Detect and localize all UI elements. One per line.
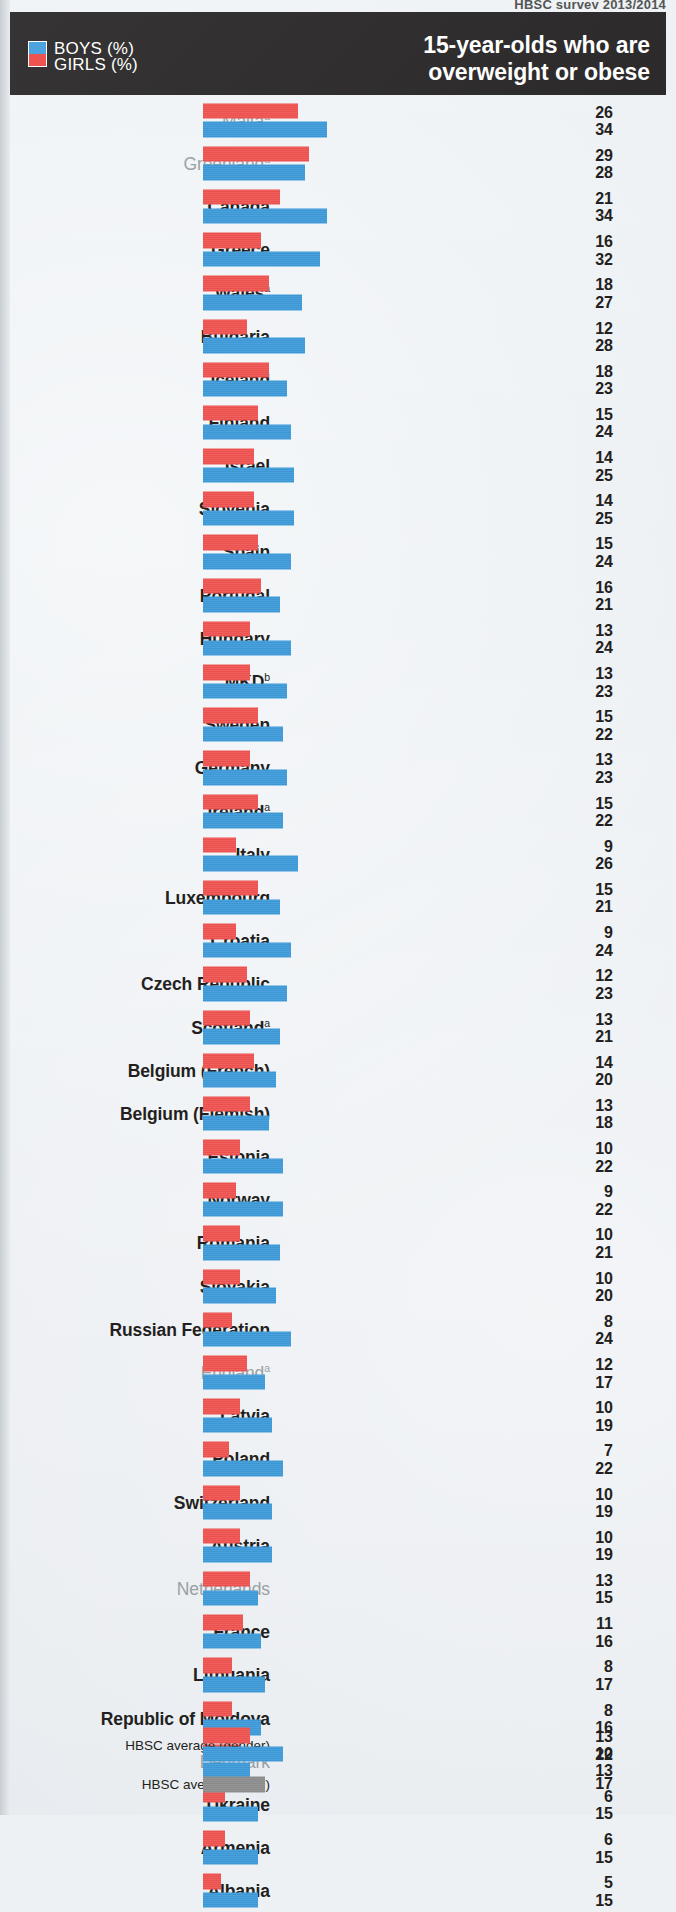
value-pair: 1020 (0, 1269, 613, 1304)
value-boys: 21 (0, 1243, 613, 1261)
value-pair: 1217 (0, 1356, 613, 1391)
value-pair: 1522 (0, 794, 613, 829)
legend: BOYS (%) GIRLS (%) (28, 41, 138, 72)
chart-row: Luxembourg1521 (0, 876, 676, 919)
value-boys: 21 (0, 1028, 613, 1046)
value-pair: 1324 (0, 621, 613, 656)
value-boys: 22 (0, 1200, 613, 1218)
value-girls: 13 (0, 621, 613, 639)
value-girls: 13 (0, 665, 613, 683)
chart-row: Switzerland1019 (0, 1481, 676, 1524)
value-girls: 11 (0, 1615, 613, 1633)
value-girls: 5 (0, 1874, 613, 1892)
value-boys: 28 (0, 164, 613, 182)
chart-row: Romania1021 (0, 1222, 676, 1265)
value-boys: 22 (0, 725, 613, 743)
value-boys: 25 (0, 466, 613, 484)
value-boys: 25 (0, 509, 613, 527)
chart-row: Irelanda1522 (0, 790, 676, 833)
chart-row: Austria1019 (0, 1524, 676, 1567)
value-pair: 1019 (0, 1399, 613, 1434)
value-pair: 1315 (0, 1571, 613, 1606)
value-girls: 29 (0, 146, 613, 164)
chart-row: Croatia924 (0, 920, 676, 963)
value-pair: 1116 (0, 1615, 613, 1650)
value-pair: 1823 (0, 362, 613, 397)
value-girls: 9 (0, 924, 613, 942)
value-girls: 15 (0, 708, 613, 726)
value-girls: 16 (0, 233, 613, 251)
value-boys: 24 (0, 1330, 613, 1348)
chart-row: Belgium (Flemish)1318 (0, 1092, 676, 1135)
chart-row: Lithuania817 (0, 1654, 676, 1697)
value-boys: 26 (0, 855, 613, 873)
running-head: HBSC survey 2013/2014 (514, 0, 666, 9)
value-girls: 13 (0, 1096, 613, 1114)
value-girls: 18 (0, 276, 613, 294)
value-boys: 19 (0, 1503, 613, 1521)
value-pair: 1521 (0, 880, 613, 915)
value-boys: 19 (0, 1416, 613, 1434)
chart-row: Italy926 (0, 833, 676, 876)
legend-swatch-girls (29, 54, 46, 66)
value-pair: 2928 (0, 146, 613, 181)
value-girls: 8 (0, 1658, 613, 1676)
value-pair: 1322 (0, 1728, 613, 1763)
value-pair: 2134 (0, 189, 613, 224)
value-pair: 1425 (0, 449, 613, 484)
value-boys: 20 (0, 1071, 613, 1089)
value-pair: 1321 (0, 1010, 613, 1045)
value-pair: 1827 (0, 276, 613, 311)
chart-row: Maltaa2634 (0, 99, 676, 142)
value-pair: 2634 (0, 103, 613, 138)
value-boys: 24 (0, 941, 613, 959)
average-row: HBSC average (total)17 (0, 1767, 676, 1801)
value-girls: 12 (0, 319, 613, 337)
hbsc-averages-block: HBSC average (gender)1322HBSC average (t… (0, 1723, 676, 1801)
value-boys: 15 (0, 1805, 613, 1823)
value-pair: 1524 (0, 535, 613, 570)
chart-row: Greenlanda2928 (0, 142, 676, 185)
value-boys: 17 (0, 1675, 613, 1693)
value-total: 17 (0, 1775, 613, 1793)
chart-row: MKDb1323 (0, 660, 676, 703)
value-girls: 13 (0, 751, 613, 769)
value-pair: 17 (0, 1775, 613, 1793)
value-pair: 615 (0, 1831, 613, 1866)
value-boys: 28 (0, 337, 613, 355)
chart-row: Spain1524 (0, 531, 676, 574)
value-pair: 926 (0, 837, 613, 872)
value-boys: 18 (0, 1114, 613, 1132)
average-row: HBSC average (gender)1322 (0, 1723, 676, 1767)
value-girls: 6 (0, 1831, 613, 1849)
value-girls: 10 (0, 1226, 613, 1244)
value-girls: 26 (0, 103, 613, 121)
value-pair: 1323 (0, 665, 613, 700)
chart-row: Greece1632 (0, 229, 676, 272)
country-bar-chart: Maltaa2634Greenlanda2928Canada2134Greece… (0, 99, 676, 1912)
value-pair: 1022 (0, 1140, 613, 1175)
chart-row: Poland722 (0, 1438, 676, 1481)
value-pair: 1524 (0, 405, 613, 440)
value-pair: 1021 (0, 1226, 613, 1261)
chart-row: Finland1524 (0, 401, 676, 444)
value-girls: 8 (0, 1701, 613, 1719)
chart-row: Iceland1823 (0, 358, 676, 401)
value-girls: 15 (0, 794, 613, 812)
chart-row: Slovakia1020 (0, 1265, 676, 1308)
legend-swatches (28, 41, 47, 67)
value-boys: 21 (0, 898, 613, 916)
chart-row: Russian Federation824 (0, 1308, 676, 1351)
value-boys: 15 (0, 1891, 613, 1909)
chart-row: Germany1323 (0, 747, 676, 790)
chart-row: Scotlanda1321 (0, 1006, 676, 1049)
chart-header-band: BOYS (%) GIRLS (%) 15-year-olds who are … (10, 12, 666, 95)
chart-row: Canada2134 (0, 185, 676, 228)
value-pair: 1522 (0, 708, 613, 743)
value-boys: 22 (0, 1157, 613, 1175)
value-boys: 32 (0, 250, 613, 268)
chart-row: Sweden1522 (0, 704, 676, 747)
value-girls: 13 (0, 1728, 613, 1746)
chart-row: Slovenia1425 (0, 488, 676, 531)
chart-row: Latvia1019 (0, 1395, 676, 1438)
